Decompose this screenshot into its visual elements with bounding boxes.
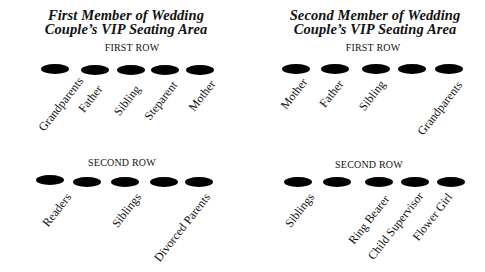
seat-ellipse (282, 64, 310, 74)
row-label-first-row: FIRST ROW (323, 42, 423, 53)
seat-label: Siblings (283, 191, 317, 229)
seat-ellipse (73, 177, 101, 187)
seat-ellipse (111, 177, 139, 187)
row-label-second-row: SECOND ROW (72, 157, 172, 168)
seat-ellipse (365, 177, 393, 187)
seat-label: Readers (40, 191, 73, 229)
seat-ellipse (323, 177, 351, 187)
seat-label: Divorced Parents (152, 191, 213, 264)
seat-ellipse (41, 64, 69, 74)
seat-label: Steparent (142, 79, 179, 122)
seat-ellipse (284, 177, 312, 187)
seat-ellipse (117, 65, 145, 75)
seat-ellipse (151, 65, 179, 75)
seat-ellipse (437, 177, 465, 187)
title-line-1: Second Member of Wedding (270, 8, 480, 22)
seat-label: Sibling (357, 78, 388, 113)
seat-label: Grandparents (415, 79, 464, 137)
title-line-1: First Member of Wedding (22, 8, 230, 22)
seat-label: Siblings (110, 191, 144, 229)
seat-ellipse (362, 64, 390, 74)
seat-ellipse (398, 64, 426, 74)
seat-ellipse (36, 175, 64, 185)
seat-ellipse (185, 177, 213, 187)
seat-label: Mother (186, 78, 217, 113)
row-label-second-row: SECOND ROW (319, 159, 419, 170)
seat-ellipse (401, 177, 429, 187)
seat-label: Mother (278, 76, 309, 111)
title-line-2: Couple’s VIP Seating Area (270, 22, 480, 36)
seat-label: Father (317, 78, 345, 110)
title-line-2: Couple’s VIP Seating Area (22, 22, 230, 36)
seat-ellipse (321, 64, 349, 74)
seat-label: Sibling (112, 83, 143, 118)
seat-ellipse (81, 65, 109, 75)
panel-title: Second Member of Wedding Couple’s VIP Se… (270, 8, 480, 36)
seat-ellipse (150, 177, 178, 187)
seat-ellipse (435, 64, 463, 74)
seat-ellipse (186, 65, 214, 75)
row-label-first-row: FIRST ROW (82, 42, 182, 53)
panel-title: First Member of Wedding Couple’s VIP Sea… (22, 8, 230, 36)
